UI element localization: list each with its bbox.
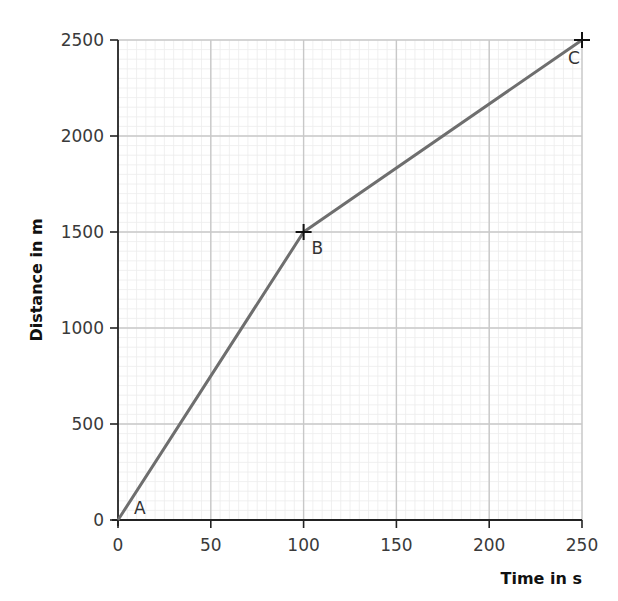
y-tick-label: 0 [93,510,104,530]
data-points: ABC [134,32,590,518]
y-axis-label: Distance in m [27,218,46,341]
x-tick-label: 0 [113,535,124,555]
axes [110,40,582,528]
x-tick-label: 150 [380,535,412,555]
y-tick-label: 500 [72,414,104,434]
x-tick-label: 100 [287,535,319,555]
x-tick-label: 50 [200,535,222,555]
y-tick-label: 2000 [61,126,104,146]
y-tick-label: 1500 [61,222,104,242]
x-axis-label: Time in s [501,569,582,588]
distance-time-chart: 05001000150020002500050100150200250 ABC … [0,0,618,601]
x-tick-label: 250 [566,535,598,555]
point-label-b: B [312,238,324,258]
tick-labels: 05001000150020002500050100150200250 [61,30,598,555]
minor-grid [118,40,582,520]
x-tick-label: 200 [473,535,505,555]
point-label-c: C [568,48,580,68]
y-tick-label: 2500 [61,30,104,50]
y-tick-label: 1000 [61,318,104,338]
point-label-a: A [134,498,146,518]
